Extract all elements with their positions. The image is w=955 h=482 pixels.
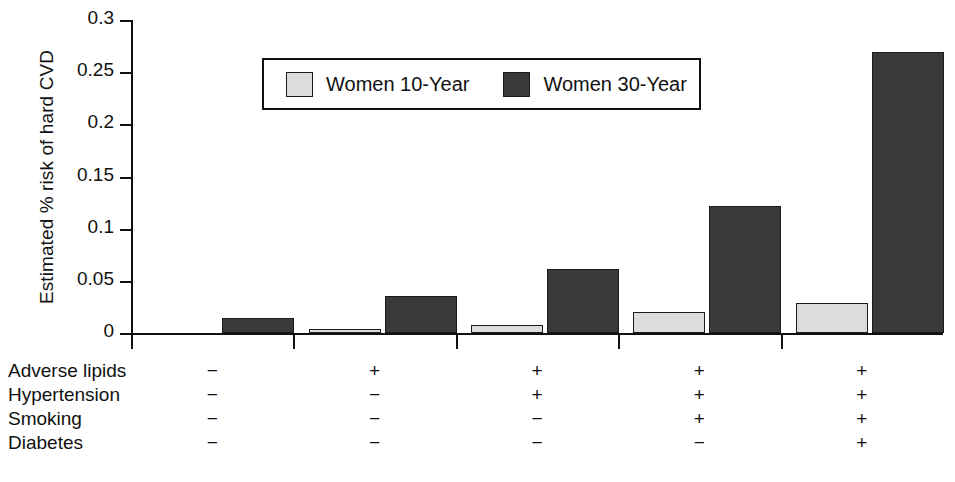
y-axis-tick-label: 0.25 xyxy=(77,59,114,81)
factor-cell: − xyxy=(355,408,395,430)
bar-30-year xyxy=(222,318,294,333)
factor-row: Adverse lipids−++++ xyxy=(8,360,955,384)
factor-cell: + xyxy=(679,408,719,430)
y-axis-tick-mark xyxy=(120,281,131,283)
legend-label: Women 30-Year xyxy=(543,73,686,96)
y-axis-tick: 0.15 xyxy=(19,177,131,178)
bar-30-year xyxy=(709,206,781,333)
factor-row: Hypertension−−+++ xyxy=(8,384,955,408)
factor-cell: − xyxy=(192,432,232,454)
factor-cell: − xyxy=(355,432,395,454)
y-axis-tick: 0.2 xyxy=(19,124,131,125)
factor-cell: + xyxy=(842,432,882,454)
risk-factor-table: Adverse lipids−++++Hypertension−−+++Smok… xyxy=(8,360,955,456)
factor-cell: − xyxy=(679,432,719,454)
y-axis-tick-label: 0.2 xyxy=(88,111,114,133)
factor-cell: + xyxy=(517,384,557,406)
caption-strip xyxy=(0,466,955,482)
x-axis-line xyxy=(131,333,943,335)
bar-10-year xyxy=(309,329,381,333)
y-axis-tick-mark xyxy=(120,333,131,335)
y-axis-tick-mark xyxy=(120,177,131,179)
bar-30-year xyxy=(872,52,944,333)
y-axis-tick: 0.25 xyxy=(19,72,131,73)
factor-row-label: Hypertension xyxy=(8,384,120,406)
factor-cell: − xyxy=(355,384,395,406)
x-axis-separator-tick xyxy=(293,333,295,349)
bar-10-year xyxy=(471,325,543,333)
y-axis-tick-mark xyxy=(120,72,131,74)
factor-cell: − xyxy=(192,360,232,382)
cvd-risk-bar-chart-figure: Estimated % risk of hard CVD 00.050.10.1… xyxy=(0,0,955,482)
factor-cell: − xyxy=(517,408,557,430)
y-axis-tick-label: 0 xyxy=(103,320,114,342)
y-axis-tick-label: 0.3 xyxy=(88,7,114,29)
factor-cell: + xyxy=(355,360,395,382)
factor-cell: − xyxy=(192,384,232,406)
factor-cell: + xyxy=(679,384,719,406)
legend-swatch-30-year xyxy=(503,72,530,97)
y-axis-tick: 0 xyxy=(19,333,131,334)
factor-cell: + xyxy=(517,360,557,382)
factor-row-label: Adverse lipids xyxy=(8,360,126,382)
y-axis-tick: 0.1 xyxy=(19,229,131,230)
bar-10-year xyxy=(633,312,705,333)
y-axis-tick: 0.3 xyxy=(19,20,131,21)
chart-legend: Women 10-YearWomen 30-Year xyxy=(262,58,701,110)
factor-cell: + xyxy=(842,408,882,430)
bar-group xyxy=(793,20,943,333)
y-axis-tick-mark xyxy=(120,20,131,22)
factor-cell: + xyxy=(679,360,719,382)
x-axis-separator-tick xyxy=(456,333,458,349)
factor-cell: + xyxy=(842,384,882,406)
y-axis-tick-mark xyxy=(120,124,131,126)
legend-label: Women 10-Year xyxy=(326,73,469,96)
factor-cell: − xyxy=(517,432,557,454)
factor-cell: + xyxy=(842,360,882,382)
factor-cell: − xyxy=(192,408,232,430)
legend-swatch-10-year xyxy=(286,72,313,97)
legend-entry: Women 10-Year xyxy=(286,72,469,97)
y-axis-tick-label: 0.1 xyxy=(88,216,114,238)
bar-10-year xyxy=(796,303,868,333)
factor-row: Smoking−−−++ xyxy=(8,408,955,432)
factor-row-label: Diabetes xyxy=(8,432,83,454)
x-axis-separator-tick xyxy=(131,333,133,349)
y-axis-tick-mark xyxy=(120,229,131,231)
y-axis-tick: 0.05 xyxy=(19,281,131,282)
factor-row: Diabetes−−−−+ xyxy=(8,432,955,456)
x-axis-separator-tick xyxy=(618,333,620,349)
x-axis-separator-tick xyxy=(781,333,783,349)
bar-30-year xyxy=(547,269,619,333)
y-axis-tick-label: 0.05 xyxy=(77,268,114,290)
bar-30-year xyxy=(385,296,457,333)
factor-row-label: Smoking xyxy=(8,408,82,430)
legend-entry: Women 30-Year xyxy=(503,72,686,97)
y-axis-tick-label: 0.15 xyxy=(77,164,114,186)
